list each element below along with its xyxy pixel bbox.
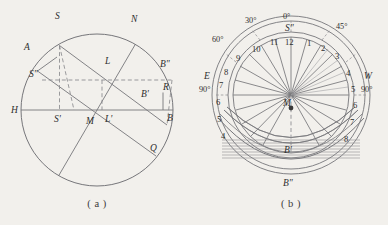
- label-Bp-b: B': [284, 145, 293, 155]
- degree-label-east: 90°: [199, 85, 210, 94]
- label-L: L: [104, 56, 110, 66]
- label-H: H: [10, 105, 19, 115]
- diagram-a-svg: S N A L B" S" R B' H S' M L' B Q: [0, 0, 194, 225]
- hour-label-right-4: 5: [351, 84, 355, 94]
- hour-label-right-1: 2: [321, 43, 325, 53]
- hour-label-right-5: 6: [353, 100, 358, 110]
- caption-a: ( a ): [0, 198, 194, 209]
- diagram-a: S N A L B" S" R B' H S' M L' B Q ( a ): [0, 0, 194, 225]
- label-R: R: [162, 82, 169, 92]
- hour-label-left-2: 9: [236, 53, 240, 63]
- hour-label-left-7: 4: [221, 131, 226, 141]
- hour-label-12: 12: [285, 37, 294, 47]
- hour-label-right-3: 4: [346, 68, 351, 78]
- label-Bpp-b: B": [283, 178, 294, 188]
- figure-root: S N A L B" S" R B' H S' M L' B Q ( a ): [0, 0, 388, 225]
- label-N: N: [130, 14, 138, 24]
- caption-b: ( b ): [194, 198, 388, 209]
- label-Q: Q: [150, 143, 157, 153]
- label-Lp: L': [104, 114, 113, 124]
- hour-label-right-6: 7: [350, 117, 355, 127]
- diagram-b-svg: 0° 30° 45° 60° 90° 90° E W S" M B' B" 11…: [194, 0, 388, 225]
- hour-label-left-1: 10: [252, 44, 261, 54]
- label-Sp: S': [54, 114, 62, 124]
- label-Bp: B': [141, 89, 150, 99]
- hour-label-right-7: 8: [344, 134, 348, 144]
- degree-label-30: 30°: [245, 16, 256, 25]
- degree-label-west: 90°: [361, 85, 372, 94]
- hour-label-right-2: 3: [335, 51, 339, 61]
- line-S-B: [60, 46, 168, 126]
- label-Bpp: B": [160, 59, 171, 69]
- degree-label-60: 60°: [212, 35, 223, 44]
- hour-label-left-5: 6: [216, 97, 221, 107]
- hour-label-left-3: 8: [224, 67, 228, 77]
- hour-label-left-6: 5: [217, 114, 221, 124]
- label-A: A: [23, 42, 30, 52]
- label-B: B: [167, 113, 173, 123]
- label-Spp-b: S": [285, 23, 295, 33]
- diagram-b: 0° 30° 45° 60° 90° 90° E W S" M B' B" 11…: [194, 0, 388, 225]
- label-Spp: S": [29, 69, 39, 79]
- sub-rays: [291, 49, 348, 95]
- label-W: W: [364, 71, 373, 81]
- label-M: M: [85, 116, 95, 126]
- hour-label-left-4: 7: [219, 80, 224, 90]
- hour-label-left-0: 11: [270, 37, 278, 47]
- label-E: E: [203, 71, 210, 81]
- degree-label-0: 0°: [283, 12, 290, 21]
- degree-label-45: 45°: [336, 22, 347, 31]
- hour-label-right-0: 1: [307, 38, 311, 48]
- label-M-b: M: [282, 98, 292, 108]
- dashed-S-curve: [60, 46, 75, 111]
- label-S: S: [55, 11, 60, 21]
